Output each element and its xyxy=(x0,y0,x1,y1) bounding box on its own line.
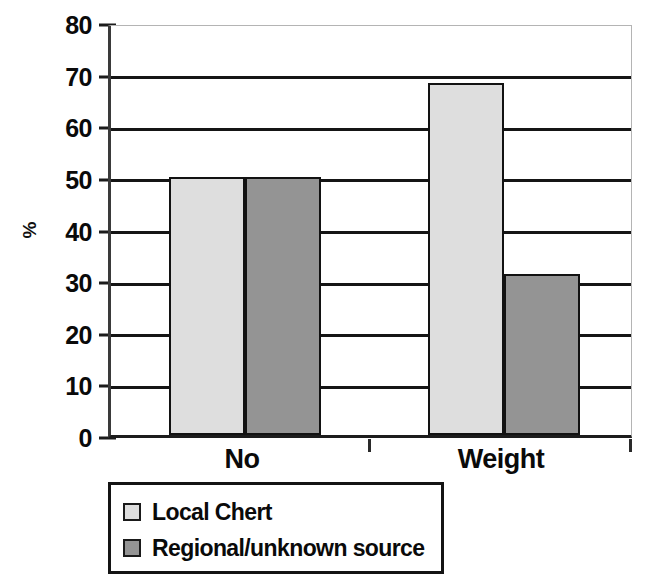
x-axis-category-label: No xyxy=(142,444,342,475)
bar xyxy=(169,177,245,435)
y-axis-tick-label: 60 xyxy=(8,116,92,141)
y-axis-tick-label: 30 xyxy=(8,271,92,296)
bar-chart-figure: % 80706050403020100 NoWeight Local Chert… xyxy=(0,0,652,584)
y-axis-tick-label: 40 xyxy=(8,219,92,244)
plot-area xyxy=(108,25,632,438)
y-axis-tick-label: 70 xyxy=(8,64,92,89)
legend-item[interactable]: Regional/unknown source xyxy=(123,530,441,566)
bar xyxy=(504,274,580,435)
gridline xyxy=(111,128,631,131)
y-axis-tick-label: 80 xyxy=(8,13,92,38)
y-axis-tick-label: 50 xyxy=(8,167,92,192)
chart-legend: Local Chert Regional/unknown source xyxy=(108,482,444,574)
bar xyxy=(245,177,321,435)
legend-item[interactable]: Local Chert xyxy=(123,494,441,530)
y-axis-tick-label: 0 xyxy=(8,426,92,451)
legend-label: Local Chert xyxy=(152,499,272,526)
bar xyxy=(428,83,504,435)
x-axis-tick-mark xyxy=(629,439,632,452)
legend-label: Regional/unknown source xyxy=(152,535,424,562)
legend-swatch-icon xyxy=(123,539,141,557)
y-axis-tick-label: 20 xyxy=(8,322,92,347)
legend-swatch-icon xyxy=(123,503,141,521)
x-axis-category-label: Weight xyxy=(401,444,601,475)
y-axis-tick-label: 10 xyxy=(8,374,92,399)
gridline xyxy=(111,76,631,79)
x-axis-tick-mark xyxy=(368,439,371,452)
